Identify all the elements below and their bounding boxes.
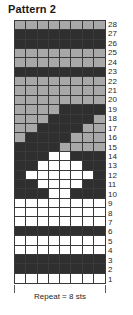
chart-cell[interactable] — [83, 21, 94, 30]
chart-cell[interactable] — [15, 21, 26, 30]
chart-cell[interactable] — [38, 199, 49, 208]
chart-cell[interactable] — [71, 236, 82, 245]
chart-cell[interactable] — [83, 30, 94, 39]
chart-cell[interactable] — [15, 96, 26, 105]
chart-cell[interactable] — [60, 96, 71, 105]
chart-cell[interactable] — [83, 255, 94, 264]
chart-cell[interactable] — [94, 58, 105, 67]
chart-cell[interactable] — [15, 236, 26, 245]
chart-cell[interactable] — [38, 246, 49, 255]
chart-cell[interactable] — [71, 49, 82, 58]
chart-cell[interactable] — [38, 133, 49, 142]
chart-cell[interactable] — [83, 246, 94, 255]
chart-cell[interactable] — [15, 208, 26, 217]
chart-cell[interactable] — [94, 199, 105, 208]
chart-cell[interactable] — [26, 255, 37, 264]
chart-cell[interactable] — [15, 189, 26, 198]
chart-cell[interactable] — [60, 21, 71, 30]
chart-cell[interactable] — [49, 171, 60, 180]
chart-cell[interactable] — [94, 227, 105, 236]
chart-cell[interactable] — [38, 180, 49, 189]
chart-cell[interactable] — [38, 115, 49, 124]
chart-cell[interactable] — [49, 105, 60, 114]
chart-cell[interactable] — [60, 143, 71, 152]
chart-cell[interactable] — [71, 274, 82, 283]
chart-cell[interactable] — [26, 133, 37, 142]
chart-cell[interactable] — [26, 115, 37, 124]
chart-cell[interactable] — [83, 86, 94, 95]
chart-cell[interactable] — [26, 208, 37, 217]
chart-cell[interactable] — [26, 86, 37, 95]
chart-cell[interactable] — [71, 86, 82, 95]
chart-cell[interactable] — [49, 180, 60, 189]
chart-cell[interactable] — [60, 199, 71, 208]
chart-cell[interactable] — [60, 77, 71, 86]
chart-cell[interactable] — [71, 246, 82, 255]
chart-cell[interactable] — [26, 77, 37, 86]
chart-cell[interactable] — [15, 274, 26, 283]
chart-cell[interactable] — [71, 227, 82, 236]
chart-cell[interactable] — [94, 152, 105, 161]
chart-cell[interactable] — [26, 152, 37, 161]
chart-cell[interactable] — [71, 58, 82, 67]
chart-cell[interactable] — [83, 133, 94, 142]
chart-cell[interactable] — [71, 115, 82, 124]
chart-cell[interactable] — [26, 21, 37, 30]
chart-cell[interactable] — [49, 68, 60, 77]
chart-cell[interactable] — [71, 180, 82, 189]
chart-cell[interactable] — [71, 255, 82, 264]
chart-cell[interactable] — [71, 189, 82, 198]
chart-cell[interactable] — [94, 68, 105, 77]
chart-cell[interactable] — [38, 30, 49, 39]
chart-cell[interactable] — [83, 49, 94, 58]
chart-cell[interactable] — [38, 236, 49, 245]
chart-cell[interactable] — [83, 68, 94, 77]
chart-cell[interactable] — [26, 105, 37, 114]
chart-cell[interactable] — [26, 40, 37, 49]
chart-cell[interactable] — [49, 264, 60, 273]
chart-cell[interactable] — [60, 86, 71, 95]
stitch-chart-grid[interactable] — [14, 20, 106, 284]
chart-cell[interactable] — [49, 143, 60, 152]
chart-cell[interactable] — [60, 208, 71, 217]
chart-cell[interactable] — [49, 77, 60, 86]
chart-cell[interactable] — [26, 124, 37, 133]
chart-cell[interactable] — [49, 96, 60, 105]
chart-cell[interactable] — [15, 143, 26, 152]
chart-cell[interactable] — [38, 255, 49, 264]
chart-cell[interactable] — [94, 21, 105, 30]
chart-cell[interactable] — [15, 227, 26, 236]
chart-cell[interactable] — [83, 40, 94, 49]
chart-cell[interactable] — [26, 161, 37, 170]
chart-cell[interactable] — [26, 58, 37, 67]
chart-cell[interactable] — [71, 208, 82, 217]
chart-cell[interactable] — [94, 161, 105, 170]
chart-cell[interactable] — [38, 227, 49, 236]
chart-cell[interactable] — [15, 246, 26, 255]
chart-cell[interactable] — [26, 30, 37, 39]
chart-cell[interactable] — [49, 133, 60, 142]
chart-cell[interactable] — [71, 161, 82, 170]
chart-cell[interactable] — [60, 255, 71, 264]
chart-cell[interactable] — [83, 208, 94, 217]
chart-cell[interactable] — [49, 236, 60, 245]
chart-cell[interactable] — [38, 105, 49, 114]
chart-cell[interactable] — [38, 40, 49, 49]
chart-cell[interactable] — [71, 30, 82, 39]
chart-cell[interactable] — [15, 133, 26, 142]
chart-cell[interactable] — [26, 180, 37, 189]
chart-cell[interactable] — [38, 58, 49, 67]
chart-cell[interactable] — [38, 96, 49, 105]
chart-cell[interactable] — [94, 133, 105, 142]
chart-cell[interactable] — [60, 124, 71, 133]
chart-cell[interactable] — [60, 171, 71, 180]
chart-cell[interactable] — [49, 49, 60, 58]
chart-cell[interactable] — [49, 115, 60, 124]
chart-cell[interactable] — [60, 161, 71, 170]
chart-cell[interactable] — [60, 68, 71, 77]
chart-cell[interactable] — [60, 264, 71, 273]
chart-cell[interactable] — [49, 21, 60, 30]
chart-cell[interactable] — [71, 96, 82, 105]
chart-cell[interactable] — [94, 86, 105, 95]
chart-cell[interactable] — [71, 77, 82, 86]
